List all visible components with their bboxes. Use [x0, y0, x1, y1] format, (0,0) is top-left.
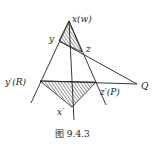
perspective-triangles-diagram: x(w) y z y′(R) z′(P) x′ Q 图 9.4.3 — [0, 0, 162, 156]
label-apex: x(w) — [72, 14, 92, 24]
label-z-prime: z′(P) — [99, 87, 120, 97]
label-z: z — [85, 44, 91, 54]
label-Q: Q — [141, 81, 149, 91]
label-y-prime: y′(R) — [4, 77, 26, 87]
hatched-triangle-bottom — [40, 81, 96, 107]
label-y: y — [48, 34, 55, 44]
label-x-prime: x′ — [57, 107, 64, 117]
figure-caption: 图 9.4.3 — [55, 129, 90, 139]
